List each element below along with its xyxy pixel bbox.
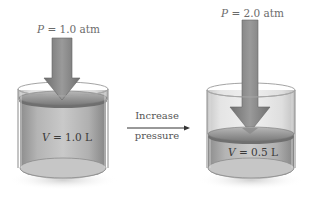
right-piston — [208, 127, 294, 144]
right-pressure-label: P = 2.0 atm — [220, 7, 284, 19]
boyles-law-diagram: P = 1.0 atm V = 1.0 L Increase pressure … — [0, 0, 310, 198]
transition-label-line2: pressure — [135, 130, 180, 141]
left-volume-label: V = 1.0 L — [42, 131, 92, 143]
left-cylinder-base — [20, 158, 106, 178]
transition: Increase pressure — [127, 110, 190, 141]
transition-arrowhead-icon — [184, 126, 190, 131]
right-volume-label: V = 0.5 L — [228, 146, 278, 158]
right-cylinder-base — [208, 158, 294, 178]
left-pressure-label: P = 1.0 atm — [36, 23, 100, 35]
transition-label-line1: Increase — [135, 110, 179, 121]
